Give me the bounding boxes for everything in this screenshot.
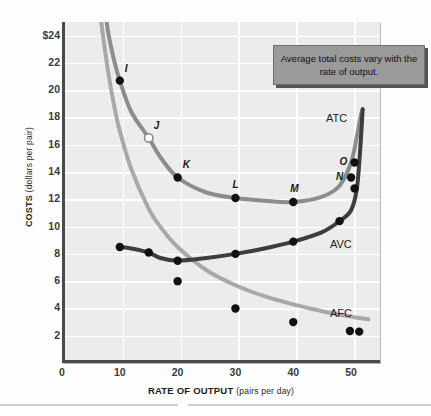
gridline-horizontal — [65, 90, 380, 92]
x-axis-title-sub: (pairs per day) — [236, 386, 294, 396]
gridline-horizontal — [65, 36, 380, 38]
x-tick-label: 0 — [42, 366, 82, 378]
x-axis-title: RATE OF OUTPUT (pairs per day) — [62, 385, 380, 396]
x-tick-label: 40 — [273, 366, 313, 378]
point-label-L: L — [232, 179, 238, 190]
gridline-horizontal — [65, 336, 380, 338]
curve-label-afc: AFC — [330, 307, 352, 319]
cost-curves-figure: 246810121416182022$24 01020304050 COSTS … — [0, 0, 431, 416]
footer-rule-left — [0, 404, 178, 406]
point-label-M: M — [290, 183, 298, 194]
point-label-K: K — [183, 159, 190, 170]
point-label-I: I — [125, 63, 128, 74]
callout-text: Average total costs vary with the rate o… — [274, 52, 424, 78]
gridline-horizontal — [65, 199, 380, 201]
y-axis-tick-labels: 246810121416182022$24 — [16, 0, 60, 416]
y-tick-label: $24 — [26, 29, 60, 41]
gridline-horizontal — [65, 145, 380, 147]
y-axis-title: COSTS (dollars per pair) — [24, 102, 34, 252]
curve-label-atc: ATC — [326, 112, 347, 124]
x-axis-title-main: RATE OF OUTPUT — [148, 385, 233, 396]
y-tick-label: 2 — [26, 329, 60, 341]
y-tick-label: 20 — [26, 83, 60, 95]
x-tick-label: 50 — [331, 366, 371, 378]
y-tick-label: 6 — [26, 274, 60, 286]
point-label-N: N — [336, 171, 343, 182]
gridline-horizontal — [65, 172, 380, 174]
gridline-horizontal — [65, 281, 380, 283]
y-tick-label: 4 — [26, 301, 60, 313]
callout-box: Average total costs vary with the rate o… — [273, 45, 425, 85]
x-tick-label: 30 — [215, 366, 255, 378]
y-axis-title-sub: (dollars per pair) — [24, 127, 34, 192]
x-tick-label: 10 — [100, 366, 140, 378]
gridline-horizontal — [65, 254, 380, 256]
curve-label-avc: AVC — [330, 238, 352, 250]
gridline-horizontal — [65, 227, 380, 229]
x-tick-label: 20 — [158, 366, 198, 378]
footer-rule-right — [188, 404, 431, 406]
point-label-J: J — [154, 120, 160, 131]
y-axis-title-main: COSTS — [24, 195, 34, 227]
y-tick-label: 22 — [26, 56, 60, 68]
point-label-O: O — [340, 156, 348, 167]
